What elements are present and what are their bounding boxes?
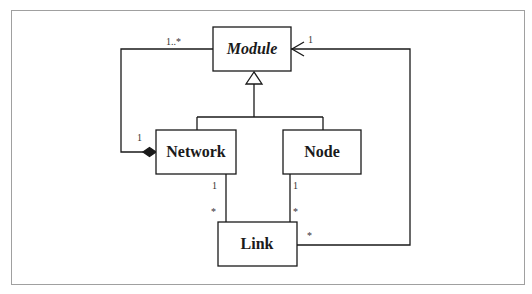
class-link: Link (218, 222, 297, 266)
mult-network-composition: 1 (137, 132, 142, 143)
class-module-label: Module (226, 40, 278, 57)
class-network: Network (156, 130, 236, 174)
class-module: Module (213, 27, 291, 71)
class-node: Node (283, 130, 361, 174)
mult-node-link-bottom: * (293, 206, 298, 217)
class-network-label: Network (166, 143, 226, 160)
mult-module-network: 1..* (166, 36, 181, 47)
mult-network-link-bottom: * (211, 206, 216, 217)
class-node-label: Node (304, 143, 340, 160)
class-link-label: Link (241, 235, 274, 252)
mult-link-module: * (307, 230, 312, 241)
uml-diagram: Module Network Node Link 1..* 1 1 1 * 1 … (0, 0, 532, 294)
mult-node-link-top: 1 (293, 180, 298, 191)
mult-module-link: 1 (308, 34, 313, 45)
mult-network-link-top: 1 (212, 180, 217, 191)
